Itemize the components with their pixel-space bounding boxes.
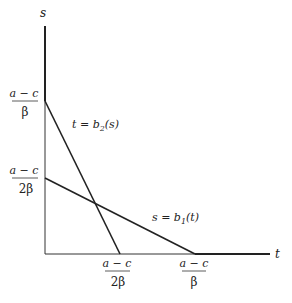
y-tick-a-c-over-beta: a − c β [10,87,39,119]
x-tick-a-c-over-beta: a − c β [180,257,209,289]
y-tick-2-denominator: 2β [19,182,34,196]
y-tick-2-numerator: a − c [10,164,39,177]
x-axis-label: t [275,247,280,261]
x-tick-1-numerator: a − c [103,257,132,270]
b2-label: t = b2(s) [72,118,119,133]
x-tick-2-denominator: β [191,275,198,289]
b1-label: s = b1(t) [152,211,199,226]
x-tick-1-denominator: 2β [111,275,126,289]
y-tick-a-c-over-2beta: a − c 2β [10,164,39,196]
x-tick-a-c-over-2beta: a − c 2β [103,257,132,289]
y-tick-1-denominator: β [22,105,29,119]
x-tick-2-numerator: a − c [180,257,209,270]
y-tick-1-numerator: a − c [10,87,39,100]
y-axis-label: s [40,6,46,20]
best-response-diagram: s t a − c β a − c 2β a − c 2β a − c β t … [0,0,292,303]
